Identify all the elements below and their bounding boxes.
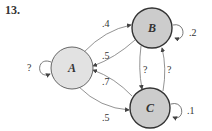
edge-label-b-a: .5 [102, 50, 110, 61]
self-loop-label-a: ? [27, 62, 32, 73]
edge-c-to-a [93, 70, 132, 96]
edge-b-to-c [140, 46, 142, 89]
edge-label-c-a: .7 [102, 76, 110, 87]
self-loop-label-b: .2 [189, 27, 197, 38]
self-loop-a [40, 61, 51, 75]
edge-a-to-b [84, 25, 131, 52]
self-loop-label-c: .1 [187, 105, 195, 116]
node-a-label: A [67, 61, 76, 75]
edge-label-b-c: ? [143, 64, 148, 75]
node-c-label: C [146, 101, 155, 115]
node-b-label: B [147, 21, 156, 35]
self-loop-b [173, 25, 183, 39]
edge-b-to-a [93, 40, 135, 66]
edge-label-a-c: .5 [102, 112, 110, 123]
edge-label-c-b: ? [167, 64, 172, 75]
self-loop-c [171, 104, 182, 118]
edge-label-a-b: .4 [102, 18, 110, 29]
markov-diagram: A B C .4 .5 .7 .5 ? ? ? .2 .1 [0, 0, 212, 131]
edge-c-to-b [162, 48, 165, 91]
edge-a-to-c [79, 87, 129, 110]
